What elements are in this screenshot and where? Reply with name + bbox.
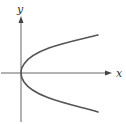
x-axis-arrow-icon	[105, 71, 112, 76]
y-axis-arrow-icon	[19, 16, 24, 23]
y-axis-label: y	[16, 3, 24, 16]
x-axis	[1, 71, 112, 76]
x-axis-label: x	[116, 67, 123, 80]
graph-canvas: y x	[0, 0, 126, 124]
